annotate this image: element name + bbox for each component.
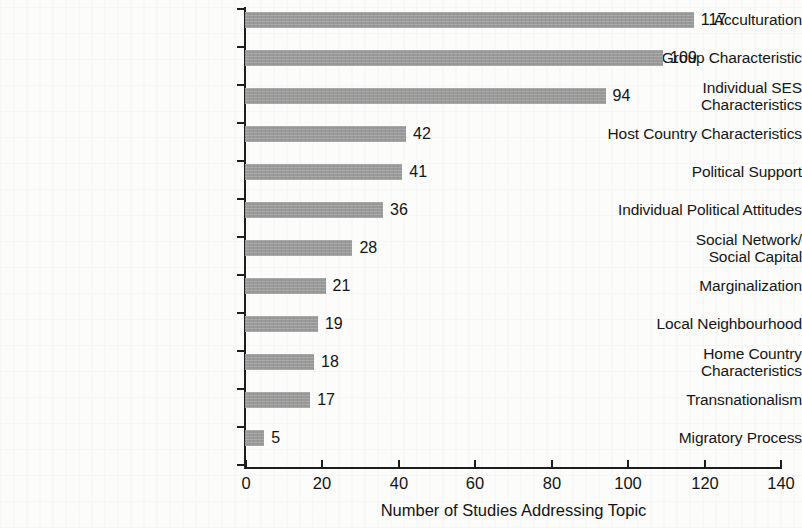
bar[interactable] [245,50,663,66]
bar-value-label: 21 [333,278,351,294]
bar[interactable] [245,430,264,446]
bar[interactable] [245,316,318,332]
bar-value-label: 109 [670,50,697,66]
plot-area: 117 109 94 42 41 36 28 21 19 18 17 5 [245,0,802,470]
x-axis-title: Number of Studies Addressing Topic [245,500,782,520]
bar[interactable] [245,12,694,28]
x-axis-tick [780,460,782,469]
x-axis-tick [474,460,476,469]
bar-value-label: 5 [271,430,280,446]
x-axis-tick-label: 120 [691,474,719,493]
x-axis-tick-label: 40 [390,474,408,493]
bar[interactable] [245,126,406,142]
x-axis-tick-label: 140 [767,474,795,493]
bar[interactable] [245,202,383,218]
chart-page: Acculturation Ethnic Group Characteristi… [0,0,802,528]
bar-value-label: 18 [321,354,339,370]
bar-value-label: 19 [325,316,343,332]
x-axis-tick-label: 20 [313,474,331,493]
bar[interactable] [245,354,314,370]
x-axis-tick-label: 0 [241,474,250,493]
bar-value-label: 94 [613,88,631,104]
x-axis-tick [627,460,629,469]
x-axis-tick [245,460,247,469]
bar[interactable] [245,88,606,104]
horizontal-bar-chart: Acculturation Ethnic Group Characteristi… [0,0,802,528]
x-axis-tick-label: 100 [614,474,642,493]
bar[interactable] [245,278,326,294]
bar-value-label: 28 [359,240,377,256]
x-axis-tick [551,460,553,469]
bar[interactable] [245,164,402,180]
x-axis-tick [398,460,400,469]
bar[interactable] [245,392,310,408]
bar-value-label: 117 [701,12,727,28]
bar-value-label: 17 [317,392,335,408]
x-axis-tick [321,460,323,469]
bar-value-label: 42 [413,126,431,142]
x-axis-tick-label: 80 [543,474,561,493]
bar[interactable] [245,240,352,256]
bar-value-label: 41 [409,164,427,180]
x-axis-tick-label: 60 [466,474,484,493]
bar-value-label: 36 [390,202,408,218]
x-axis-tick [704,460,706,469]
